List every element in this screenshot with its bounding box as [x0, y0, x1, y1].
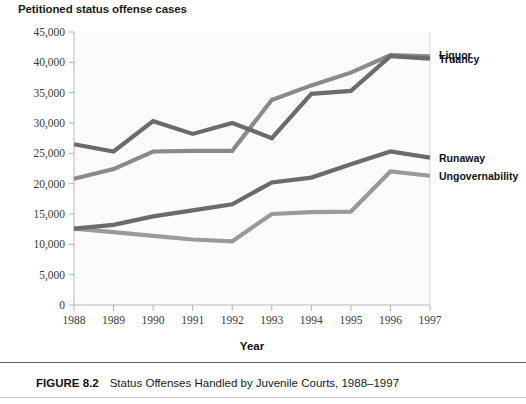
- caption-bottom-rule: [0, 397, 526, 398]
- y-axis-tick-label: 20,000: [33, 178, 65, 191]
- x-axis-tick-label: 1988: [63, 314, 86, 326]
- x-axis-tick-label: 1996: [379, 314, 402, 326]
- x-axis-tick-label: 1990: [142, 314, 165, 326]
- y-axis-tick-label: 35,000: [33, 87, 65, 100]
- x-axis-tick-label: 1997: [419, 314, 442, 326]
- y-axis-tick-label: 40,000: [33, 56, 65, 69]
- y-axis-tick-label: 15,000: [33, 208, 65, 221]
- figure-caption: FIGURE 8.2 Status Offenses Handled by Ju…: [0, 369, 526, 396]
- x-axis-tick-label: 1992: [221, 314, 244, 326]
- figure-caption-text: Status Offenses Handled by Juvenile Cour…: [110, 377, 399, 389]
- y-axis-tick-label: 25,000: [33, 147, 65, 160]
- x-axis-title: Year: [240, 340, 265, 352]
- chart-plot-area: 05,00010,00015,00020,00025,00030,00035,0…: [0, 0, 526, 360]
- line-chart-svg: 05,00010,00015,00020,00025,00030,00035,0…: [0, 0, 526, 360]
- y-axis-tick-label: 30,000: [33, 117, 65, 130]
- x-axis-tick-label: 1994: [300, 314, 323, 326]
- series-label-liquor: Liquor: [439, 49, 472, 61]
- series-label-runaway: Runaway: [439, 152, 485, 164]
- x-axis-tick-label: 1991: [181, 314, 204, 326]
- x-axis-tick-label: 1995: [339, 314, 362, 326]
- figure-caption-label: FIGURE 8.2: [36, 377, 99, 389]
- figure-page: Petitioned status offense cases 05,00010…: [0, 0, 526, 404]
- y-axis-tick-label: 5,000: [39, 269, 65, 282]
- y-axis: 05,00010,00015,00020,00025,00030,00035,0…: [33, 26, 74, 311]
- caption-top-rule: [0, 362, 526, 363]
- y-axis-tick-label: 0: [59, 299, 65, 311]
- y-axis-tick-label: 45,000: [33, 26, 65, 39]
- series-labels-group: TruancyLiquorRunawayUngovernability: [439, 49, 519, 182]
- y-axis-tick-label: 10,000: [33, 238, 65, 251]
- x-axis-tick-label: 1989: [102, 314, 125, 326]
- plot-background: [74, 32, 430, 305]
- series-label-ungovernability: Ungovernability: [439, 170, 519, 182]
- x-axis-tick-label: 1993: [260, 314, 283, 326]
